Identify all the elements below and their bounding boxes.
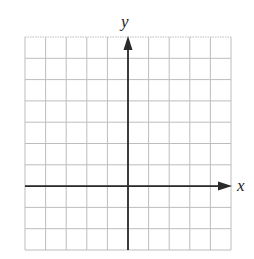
- y-axis-label: y: [119, 12, 129, 31]
- y-axis-arrow-icon: [124, 36, 133, 50]
- coordinate-plane: x y: [0, 0, 254, 259]
- x-axis-label: x: [236, 176, 245, 195]
- x-axis-arrow-icon: [218, 182, 232, 191]
